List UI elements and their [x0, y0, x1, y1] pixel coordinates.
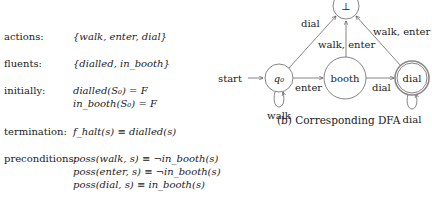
fluents-value: {dialled, in_booth}: [73, 58, 170, 70]
state-dial-label: dial: [403, 73, 422, 84]
fluents-label: fluents:: [4, 58, 42, 70]
figure-caption: (b) Corresponding DFA: [277, 114, 400, 126]
precondition-walk: poss(walk, s) ≡ ¬in_booth(s): [73, 153, 218, 165]
precondition-dial: poss(dial, s) ≡ in_booth(s): [73, 179, 205, 191]
initially-label: initially:: [4, 85, 45, 97]
dfa-diagram: ⊥ q₀ booth dial start dial enter walk wa…: [215, 0, 432, 205]
precondition-enter: poss(enter, s) ≡ ¬in_booth(s): [73, 166, 221, 178]
loop-q0: [274, 92, 284, 107]
edge-label-q0-bottom: dial: [301, 18, 320, 29]
edge-label-booth-bottom: walk, enter: [318, 39, 375, 50]
actions-value: {walk, enter, dial}: [73, 31, 167, 43]
state-booth-label: booth: [331, 73, 360, 84]
initially-line-1: dialled(S₀) = F: [73, 85, 148, 97]
actions-label: actions:: [4, 31, 44, 43]
state-bottom-label: ⊥: [341, 1, 350, 12]
preconditions-label: preconditions:: [4, 153, 77, 165]
loop-dial: [407, 94, 417, 109]
termination-label: termination:: [4, 126, 67, 138]
situation-calculus-spec: actions: {walk, enter, dial} fluents: {d…: [0, 0, 215, 205]
termination-value: f_halt(s) ≡ dialled(s): [73, 126, 176, 138]
edge-label-dial-loop: dial: [403, 114, 422, 125]
state-q0-label: q₀: [274, 73, 284, 84]
initially-line-2: in_booth(S₀) = F: [73, 98, 157, 110]
edge-label-dial-bottom: walk, enter: [373, 26, 430, 37]
edge-label-booth-dial: dial: [372, 82, 391, 93]
start-label: start: [218, 73, 242, 84]
edge-label-q0-booth: enter: [295, 82, 322, 93]
